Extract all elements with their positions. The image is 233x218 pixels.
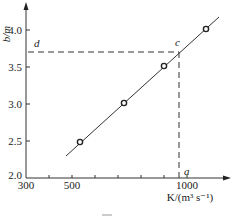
y-tick-3.5: 3.5 — [8, 61, 22, 73]
data-point — [203, 26, 208, 31]
fit-line — [66, 17, 219, 156]
y-tick-3.0: 3.0 — [8, 98, 22, 110]
data-point — [161, 63, 166, 68]
y-ticks — [26, 30, 30, 141]
x-tick-1000: 1000 — [176, 179, 199, 191]
x-axis-arrow-icon — [223, 176, 231, 181]
annotation-d: d — [34, 37, 40, 49]
annotation-a: a — [184, 165, 190, 177]
y-axis-arrow-icon — [24, 2, 29, 10]
y-tick-2.5: 2.5 — [8, 135, 22, 147]
y-axis-label: b/m — [0, 26, 12, 43]
annotation-c: c — [175, 36, 180, 48]
x-axis-label: K/(m³ s⁻¹) — [167, 191, 214, 204]
data-point — [121, 100, 126, 105]
data-point — [77, 139, 82, 144]
x-tick-300: 300 — [18, 179, 35, 191]
chart: 4.0 3.5 3.0 2.5 2.0 300 500 1000 b/m K/(… — [0, 0, 233, 218]
x-tick-500: 500 — [64, 179, 81, 191]
